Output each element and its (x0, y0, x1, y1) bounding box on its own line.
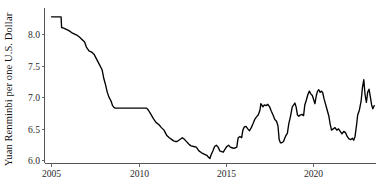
y-tick-label: 8.0 (28, 29, 40, 40)
y-tick-labels: 6.0 6.5 7.0 7.5 8.0 (28, 29, 40, 166)
x-tick-label: 2005 (42, 168, 61, 179)
x-tick-label: 2020 (304, 168, 323, 179)
y-tick-label: 7.0 (28, 92, 40, 103)
y-axis-label: Yuan Renminbi per one U.S. Dollar (0, 0, 18, 178)
data-series-line (51, 17, 374, 159)
y-tick-label: 6.0 (28, 155, 40, 166)
x-tick-labels: 2005 2010 2015 2020 (42, 168, 323, 179)
y-tick-label: 6.5 (28, 124, 40, 135)
x-tick-label: 2015 (217, 168, 236, 179)
x-tick-label: 2010 (130, 168, 149, 179)
line-chart-svg: 6.0 6.5 7.0 7.5 8.0 2005 2010 2015 2020 (18, 0, 379, 191)
chart-figure: Yuan Renminbi per one U.S. Dollar 6.0 6.… (0, 0, 379, 191)
y-tick-label: 7.5 (28, 61, 40, 72)
y-axis-label-text: Yuan Renminbi per one U.S. Dollar (4, 12, 15, 165)
plot-area: 6.0 6.5 7.0 7.5 8.0 2005 2010 2015 2020 (18, 0, 379, 191)
